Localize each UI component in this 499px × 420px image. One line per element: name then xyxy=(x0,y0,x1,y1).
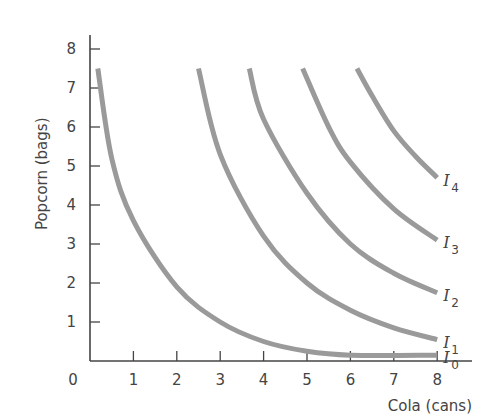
y-tick-label: 8 xyxy=(66,40,76,58)
x-tick-label: 1 xyxy=(129,371,139,389)
x-tick-label: 2 xyxy=(172,371,182,389)
y-tick-label: 1 xyxy=(66,313,76,331)
origin-label: 0 xyxy=(68,371,78,389)
curve-label-i4: I xyxy=(442,171,450,190)
x-tick-label: 5 xyxy=(302,371,312,389)
y-tick-label: 7 xyxy=(66,79,76,97)
y-tick-label: 3 xyxy=(66,235,76,253)
x-tick-label: 7 xyxy=(389,371,399,389)
labels: I0I1I2I3I4 xyxy=(442,171,459,372)
x-tick-label: 4 xyxy=(259,371,269,389)
curve-label-sub: 0 xyxy=(451,358,459,372)
curve-i0 xyxy=(98,69,437,356)
curve-label-sub: 2 xyxy=(451,296,459,310)
y-tick-label: 6 xyxy=(66,118,76,136)
y-axis-title: Popcorn (bags) xyxy=(33,118,51,231)
curve-label-i1: I xyxy=(442,333,450,352)
y-tick-label: 2 xyxy=(66,274,76,292)
y-tick-label: 4 xyxy=(66,196,76,214)
x-tick-label: 8 xyxy=(432,371,442,389)
curve-i4 xyxy=(357,69,437,178)
curve-label-i3: I xyxy=(442,233,450,252)
indifference-curve-chart: 12345678123456780Cola (cans)Popcorn (bag… xyxy=(0,0,499,420)
curve-label-i2: I xyxy=(442,286,450,305)
curve-label-sub: 3 xyxy=(451,243,459,257)
curve-label-sub: 1 xyxy=(451,343,459,357)
x-tick-label: 6 xyxy=(346,371,356,389)
curve-i2 xyxy=(249,69,437,293)
x-axis-title: Cola (cans) xyxy=(388,397,472,415)
x-tick-label: 3 xyxy=(215,371,225,389)
curve-label-sub: 4 xyxy=(451,181,459,195)
y-tick-label: 5 xyxy=(66,157,76,175)
curves xyxy=(98,69,437,356)
